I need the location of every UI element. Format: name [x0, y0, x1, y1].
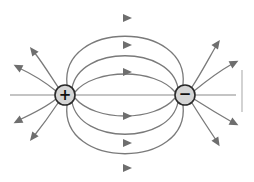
- field-arrow-top: [123, 14, 132, 22]
- negative-side-arrow: [229, 57, 241, 68]
- dipole-field-diagram: + −: [0, 0, 254, 182]
- negative-side-field-line: [194, 64, 232, 91]
- field-arrow-bottom: [123, 164, 132, 172]
- negative-side-arrow: [211, 38, 223, 50]
- connecting-field-line-bottom: [67, 105, 184, 154]
- minus-sign: −: [179, 85, 192, 103]
- negative-side-field-line: [194, 99, 232, 122]
- negative-side-arrow: [211, 136, 223, 148]
- outgoing-field-line: [19, 99, 56, 120]
- field-arrow-bottom: [123, 112, 132, 120]
- field-arrow-top: [123, 41, 132, 49]
- negative-charge: −: [175, 85, 195, 105]
- outgoing-arrow: [12, 116, 24, 127]
- outgoing-field-line: [34, 103, 58, 136]
- field-arrow-bottom: [123, 139, 132, 147]
- positive-charge: +: [55, 85, 75, 105]
- outgoing-field-line: [19, 68, 56, 91]
- plus-sign: +: [59, 86, 72, 104]
- connecting-field-line-top: [75, 74, 175, 92]
- negative-side-field-line: [192, 103, 216, 140]
- outgoing-field-line: [34, 52, 58, 87]
- outgoing-arrow: [12, 61, 24, 72]
- negative-side-field-line: [192, 46, 216, 87]
- negative-side-arrow: [229, 118, 241, 129]
